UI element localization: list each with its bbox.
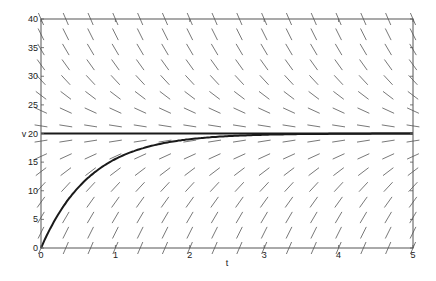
- slope-segment: [384, 60, 392, 71]
- slope-segment: [212, 227, 218, 239]
- y-tick-label: 25: [28, 100, 38, 110]
- slope-segment: [283, 125, 296, 127]
- slope-segment: [209, 91, 219, 99]
- y-tick-label: 20: [28, 129, 38, 139]
- slope-segment: [360, 197, 368, 208]
- slope-segment: [63, 227, 69, 239]
- slope-segment: [285, 60, 293, 71]
- x-axis-label: t: [226, 258, 229, 268]
- slope-segment: [360, 212, 367, 223]
- slope-segment: [333, 168, 343, 176]
- slope-segment: [357, 140, 370, 142]
- y-tick-label: 30: [28, 71, 38, 81]
- slope-segment: [137, 29, 143, 41]
- slope-segment: [258, 140, 271, 142]
- slope-segment: [261, 29, 267, 41]
- slope-segment: [286, 44, 293, 55]
- slope-segment: [283, 154, 295, 159]
- slope-segment: [361, 29, 367, 41]
- y-tick-label: 35: [28, 43, 38, 53]
- slope-segment: [236, 197, 244, 208]
- slope-segment: [112, 212, 119, 223]
- slope-segment: [307, 125, 320, 127]
- slope-segment: [260, 197, 268, 208]
- slope-segment: [309, 168, 319, 176]
- slope-segment: [84, 140, 97, 142]
- solution-curve: [41, 134, 413, 248]
- slope-segment: [111, 75, 120, 85]
- slope-segment: [113, 227, 119, 239]
- slope-segment: [135, 91, 145, 99]
- slope-segment: [283, 140, 296, 142]
- slope-segment: [110, 168, 120, 176]
- slope-segment: [335, 212, 342, 223]
- slope-segment: [335, 44, 342, 55]
- slope-segment: [384, 197, 392, 208]
- slope-segment: [137, 44, 144, 55]
- slope-segment: [134, 154, 146, 159]
- slope-segment: [160, 168, 170, 176]
- slope-segment: [260, 60, 268, 71]
- slope-segment: [161, 197, 169, 208]
- slope-segment: [61, 75, 70, 85]
- slope-segment: [258, 108, 270, 113]
- slope-segment: [209, 168, 219, 176]
- slope-segment: [235, 182, 244, 192]
- slope-segment: [61, 168, 71, 176]
- slope-segment: [385, 29, 391, 41]
- slope-segment: [61, 182, 70, 192]
- slope-segment: [112, 197, 120, 208]
- slope-segment: [162, 44, 169, 55]
- slope-segment: [359, 75, 368, 85]
- slope-segment: [258, 125, 271, 127]
- slope-segment: [309, 75, 318, 85]
- slope-segment: [384, 182, 393, 192]
- slope-segment: [382, 108, 394, 113]
- slope-segment: [134, 140, 147, 142]
- slope-segment: [209, 154, 221, 159]
- slope-segment: [112, 44, 119, 55]
- slope-segment: [162, 212, 169, 223]
- slope-segment: [160, 91, 170, 99]
- slope-segment: [286, 29, 292, 41]
- slope-segment: [186, 197, 194, 208]
- slope-segment: [210, 75, 219, 85]
- slope-segment: [185, 182, 194, 192]
- data-series: [41, 134, 413, 249]
- slope-segment: [85, 154, 97, 159]
- slope-segment: [112, 60, 120, 71]
- slope-segment: [359, 182, 368, 192]
- slope-segment: [385, 44, 392, 55]
- slope-segment: [187, 227, 193, 239]
- slope-segment: [233, 125, 246, 127]
- slope-segment: [334, 182, 343, 192]
- slope-segment: [311, 212, 318, 223]
- slope-segment: [187, 44, 194, 55]
- slope-segment: [161, 75, 170, 85]
- slope-segment: [309, 182, 318, 192]
- slope-segment: [210, 182, 219, 192]
- slope-segment: [308, 108, 320, 113]
- slope-segment: [110, 91, 120, 99]
- slope-segment: [358, 168, 368, 176]
- x-tick-label: 5: [410, 250, 415, 260]
- slope-segment: [284, 168, 294, 176]
- slope-segment: [335, 60, 343, 71]
- slope-segment: [237, 29, 243, 41]
- slope-segment: [332, 140, 345, 142]
- slope-segment: [185, 91, 195, 99]
- y-tick-label: 40: [28, 14, 38, 24]
- x-axis-ticks: 012345: [38, 19, 415, 260]
- slope-segment: [385, 212, 392, 223]
- slope-segment: [161, 60, 169, 71]
- slope-segment: [284, 91, 294, 99]
- slope-segment: [261, 44, 268, 55]
- slope-segment: [358, 91, 368, 99]
- slope-segment: [63, 29, 69, 41]
- slope-segment: [233, 140, 246, 142]
- slope-segment: [184, 154, 196, 159]
- slope-segment: [109, 125, 122, 127]
- slope-segment: [86, 75, 95, 85]
- slope-segment: [333, 108, 345, 113]
- slope-segment: [61, 91, 71, 99]
